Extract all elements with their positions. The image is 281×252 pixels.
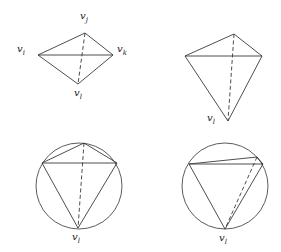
label-vl: vl [219,232,227,246]
edge-left-top [185,34,234,56]
label-vi: vi [17,43,25,57]
label-vl: vl [74,87,82,101]
edge-right-vl [228,56,262,121]
edge-vk-vl [78,55,113,84]
edge-top-right [234,34,262,56]
edge-top-vl-hidden [78,143,84,228]
figure-tetrahedron-elongated: vl [185,34,262,126]
figure-tetrahedron-labeled: vi vj vk vl [17,10,127,101]
edge-vj-vl-hidden [78,33,85,84]
edge-top-vl-hidden [228,34,234,121]
edge-vj-vk [85,33,113,55]
figure-inscribed-quadrilateral-2: vl [182,143,268,246]
edge-right-vl [225,164,263,229]
label-vk: vk [117,43,127,57]
edge-right-vl [78,163,117,228]
edge-vi-vj [38,33,85,55]
edge-top-right [84,143,117,163]
diagram-canvas: vi vj vk vl vl vl [0,0,281,252]
edge-left-vl [42,163,78,228]
label-vl: vl [72,231,80,245]
edge-left-upper-right [189,157,257,164]
label-vj: vj [80,10,89,24]
figure-inscribed-quadrilateral-1: vl [36,143,122,245]
edge-upper-right-right [257,157,263,164]
label-vl: vl [207,112,215,126]
edge-upper-right-vl-hidden [225,157,257,229]
circumcircle [182,143,268,229]
edge-left-vl [189,164,225,229]
edge-vi-vl [38,55,78,84]
